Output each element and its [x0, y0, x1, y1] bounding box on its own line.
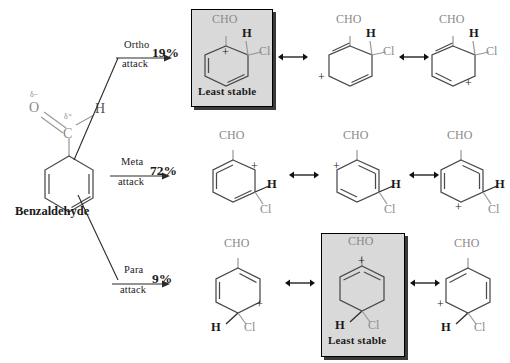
meta-3-cho-label: CHO: [447, 128, 472, 143]
para-arrow-top-label: Para: [124, 264, 143, 275]
meta-structure-3: CHO H Cl +: [435, 134, 510, 212]
ortho-3-h-label: H: [469, 26, 479, 41]
ortho-structure-3: CHO H Cl +: [423, 14, 495, 86]
meta-2-cl-label: Cl: [384, 202, 395, 217]
ortho-structure-1: CHO H Cl +: [196, 14, 268, 86]
meta-2-plus-charge: +: [333, 159, 340, 174]
meta-1-cl-label: Cl: [260, 202, 271, 217]
para-structure-1: CHO H Cl +: [204, 240, 278, 332]
meta-3-plus-charge: +: [455, 200, 462, 215]
ortho-2-plus-charge: +: [318, 70, 325, 85]
meta-2-h-label: H: [391, 177, 401, 192]
meta-3-h-label: H: [495, 177, 505, 192]
para-3-plus-charge: +: [437, 297, 444, 312]
ortho-3-cho-label: CHO: [439, 12, 464, 27]
para-3-h-label: H: [441, 320, 451, 335]
meta-yield-label: 72%: [150, 163, 177, 179]
meta-1-cho-label: CHO: [219, 128, 244, 143]
para-1-h-label: H: [211, 320, 221, 335]
pathway-ortho: Ortho attack 19% Least stable CHO H Cl +: [0, 0, 505, 118]
meta-arrow-bottom-label: attack: [118, 176, 144, 187]
para-2-plus-charge: +: [358, 254, 365, 269]
para-1-plus-charge: +: [256, 297, 263, 312]
para-1-cho-label: CHO: [224, 236, 249, 251]
meta-2-cho-label: CHO: [343, 128, 368, 143]
pathway-para: Para attack 9% CHO H Cl +: [0, 228, 505, 363]
meta-1-plus-charge: +: [251, 159, 258, 174]
meta-structure-2: CHO H Cl +: [331, 134, 409, 212]
ortho-arrow-bottom-label: attack: [122, 58, 148, 69]
para-2-cho-label: CHO: [348, 234, 373, 249]
para-3-cl-label: Cl: [474, 320, 485, 335]
ortho-1-cho-label: CHO: [212, 12, 237, 27]
para-2-cl-label: Cl: [368, 318, 379, 333]
ortho-1-cl-label: Cl: [259, 44, 270, 59]
ortho-2-cl-label: Cl: [383, 44, 394, 59]
ortho-3-cl-label: Cl: [486, 44, 497, 59]
para-yield-label: 9%: [152, 271, 172, 287]
para-resonance-arrow-1: [285, 276, 315, 290]
ortho-1-h-label: H: [242, 26, 252, 41]
para-structure-3: CHO H Cl +: [434, 240, 508, 332]
para-1-cl-label: Cl: [244, 320, 255, 335]
ortho-arrow-top-label: Ortho: [124, 39, 150, 50]
ortho-1-plus-charge: +: [222, 45, 229, 60]
para-structure-2: CHO H Cl +: [328, 238, 402, 330]
meta-structure-1: CHO H Cl +: [207, 134, 285, 212]
ortho-least-stable-note: Least stable: [198, 85, 256, 97]
ortho-2-cho-label: CHO: [336, 12, 361, 27]
meta-resonance-arrow-1: [289, 168, 319, 182]
ortho-2-h-label: H: [366, 26, 376, 41]
para-least-stable-note: Least stable: [328, 334, 386, 346]
para-3-cho-label: CHO: [454, 236, 479, 251]
meta-3-cl-label: Cl: [488, 202, 499, 217]
meta-1-h-label: H: [267, 177, 277, 192]
pathway-meta: Meta attack 72% CHO H Cl +: [0, 118, 505, 228]
para-2-h-label: H: [335, 318, 345, 333]
ortho-resonance-arrow-1: [278, 50, 308, 64]
ortho-yield-label: 19%: [152, 45, 179, 61]
ortho-3-plus-charge: +: [465, 76, 472, 91]
ortho-structure-2: CHO H Cl +: [320, 14, 392, 86]
para-arrow-bottom-label: attack: [120, 284, 146, 295]
meta-arrow-top-label: Meta: [121, 156, 143, 167]
